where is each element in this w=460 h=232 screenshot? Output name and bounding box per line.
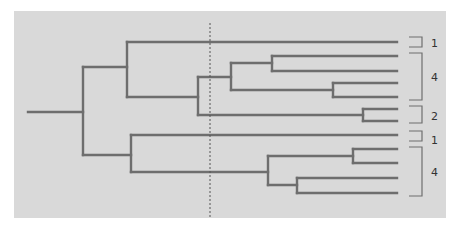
group-label: 1 (431, 37, 438, 50)
group-label: 4 (431, 166, 438, 179)
group-label: 2 (431, 110, 438, 123)
dendrogram-diagram: 1 4 2 1 4 (0, 0, 460, 232)
group-label: 4 (431, 71, 438, 84)
group-label: 1 (431, 134, 438, 147)
